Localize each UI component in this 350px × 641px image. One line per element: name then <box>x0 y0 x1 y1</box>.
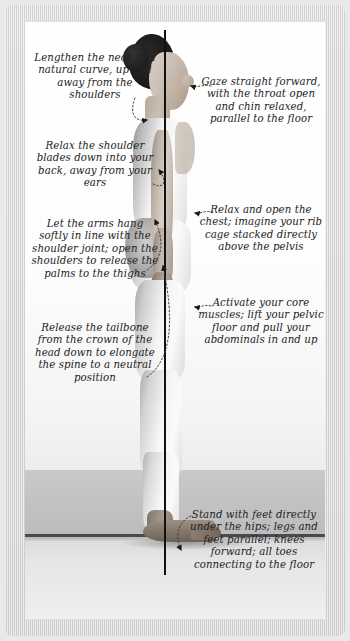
annotation-release-tailbone: Release the tailbone from the crown of t… <box>33 322 157 384</box>
annotation-let-arms-hang: Let the arms hang softly in line with th… <box>31 218 159 280</box>
annotation-activate-core: Activate your core muscles; lift your pe… <box>197 297 325 347</box>
figure-chest <box>175 122 195 174</box>
annotation-lengthen-neck: Lengthen the neck in a natural curve, up… <box>33 52 157 102</box>
figure-nose <box>183 75 194 87</box>
poster-plate: Lengthen the neck in a natural curve, up… <box>25 22 325 619</box>
annotation-gaze-straight-forward: Gaze straight forward, with the throat o… <box>197 76 325 126</box>
annotation-relax-shoulder-blades: Relax the shoulder blades down into your… <box>33 140 157 190</box>
annotation-stand-with-feet: Stand with feet directly under the hips;… <box>183 509 325 571</box>
vertical-plumb-line <box>164 30 166 575</box>
annotation-relax-open-chest: Relax and open the chest; imagine your r… <box>197 204 325 254</box>
poster: Lengthen the neck in a natural curve, up… <box>0 0 350 641</box>
